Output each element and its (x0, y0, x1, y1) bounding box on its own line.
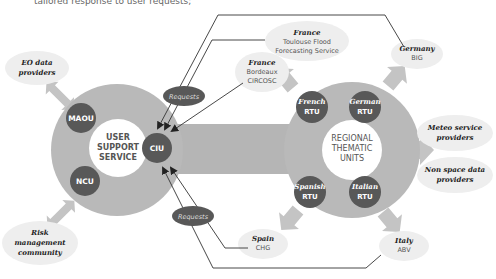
unit-spanish-rtu-line1: Spanish (294, 182, 325, 191)
spain-country: Spain (252, 234, 274, 243)
requests-top-label: Requests (169, 93, 200, 101)
service-architecture-diagram: tailored response to user requests; (0, 0, 496, 279)
toulouse-country: France (293, 28, 321, 37)
meteo-service-providers: Meteo service providers (417, 115, 493, 151)
regional-label-3: UNITS (340, 154, 364, 163)
partner-germany: Germany BIG (391, 39, 443, 69)
italy-line1: ABV (397, 246, 411, 254)
risk-line3: community (18, 248, 63, 257)
bordeaux-country: France (248, 58, 276, 67)
italy-country: Italy (394, 236, 414, 245)
unit-maou-label: MAOU (68, 114, 94, 123)
non-space-data-providers: Non space data providers (417, 157, 493, 193)
regional-label-1: REGIONAL (331, 134, 373, 143)
unit-spanish-rtu-line2: RTU (302, 193, 318, 201)
unit-german-rtu-line2: RTU (357, 108, 373, 116)
requests-badge-bottom: Requests (172, 206, 214, 226)
unit-german-rtu-line1: German (349, 97, 380, 106)
unit-french-rtu-line2: RTU (304, 108, 320, 116)
eo-data-providers: EO data providers (5, 51, 69, 85)
unit-italian-rtu-line1: Italian (351, 182, 378, 191)
nonspace-line2: providers (437, 175, 474, 184)
partner-spain: Spain CHG (238, 229, 288, 259)
bordeaux-line1: Bordeaux (246, 68, 277, 76)
unit-french-rtu-line1: French (297, 97, 325, 106)
bordeaux-line2: CIRCOSC (248, 77, 277, 85)
toulouse-line1: Toulouse Flood (282, 38, 331, 46)
requests-bottom-label: Requests (178, 213, 209, 221)
eo-line1: EO data (20, 58, 53, 67)
partner-france-bordeaux: France Bordeaux CIRCOSC (235, 52, 289, 92)
unit-italian-rtu-line2: RTU (357, 193, 373, 201)
unit-french-rtu[interactable]: French RTU (296, 91, 328, 123)
top-caption: tailored response to user requests; (34, 0, 191, 6)
requests-badge-top: Requests (163, 86, 205, 106)
partner-france-toulouse: France Toulouse Flood Forecasting Servic… (265, 21, 349, 61)
germany-line1: BIG (411, 54, 422, 62)
unit-ncu-label: NCU (76, 177, 94, 186)
risk-line1: Risk (30, 228, 48, 237)
toulouse-line2: Forecasting Service (275, 47, 339, 55)
nonspace-line1: Non space data (424, 165, 486, 174)
eo-line2: providers (19, 68, 56, 77)
unit-italian-rtu[interactable]: Italian RTU (349, 176, 381, 208)
user-support-label-1: USER (106, 133, 130, 142)
risk-management-community: Risk management community (2, 221, 78, 265)
unit-spanish-rtu[interactable]: Spanish RTU (294, 176, 326, 208)
unit-maou[interactable]: MAOU (66, 103, 96, 133)
unit-ciu-label: CIU (150, 144, 164, 153)
meteo-line2: providers (437, 133, 474, 142)
user-support-label-3: SERVICE (99, 153, 137, 162)
partner-italy: Italy ABV (379, 231, 429, 261)
germany-country: Germany (399, 44, 435, 53)
risk-line2: management (14, 238, 66, 247)
regional-label-2: THEMATIC (331, 144, 373, 153)
user-support-label-2: SUPPORT (97, 143, 140, 152)
meteo-line1: Meteo service (427, 123, 483, 132)
unit-ncu[interactable]: NCU (70, 166, 100, 196)
spain-line1: CHG (256, 244, 270, 252)
unit-ciu[interactable]: CIU (142, 133, 172, 163)
unit-german-rtu[interactable]: German RTU (349, 91, 381, 123)
